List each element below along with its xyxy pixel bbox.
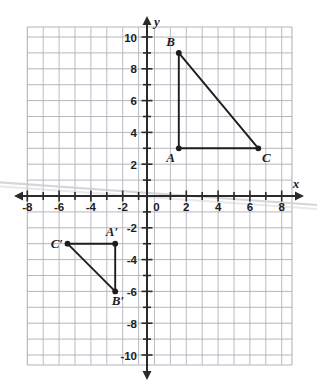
point-a — [176, 145, 182, 151]
point-c-label: C — [262, 150, 271, 165]
y-tick-pos6: 6 — [131, 95, 137, 107]
point-c-prime — [65, 241, 71, 247]
y-tick-neg6: -6 — [127, 286, 137, 298]
y-tick-neg4: -4 — [127, 254, 138, 266]
x-tick-neg2: -2 — [118, 201, 128, 213]
point-a-label: A — [165, 150, 175, 165]
origin-label: 0 — [153, 201, 159, 213]
y-tick-neg10: -10 — [120, 350, 137, 362]
x-axis-tick-labels: -8 -6 -4 -2 0 2 4 6 8 — [22, 201, 285, 213]
point-b — [176, 50, 182, 56]
x-tick-pos8: 8 — [278, 201, 285, 213]
point-a-prime-label: A′ — [105, 224, 119, 239]
point-b-prime-label: B′ — [111, 293, 125, 308]
y-axis-label: y — [152, 14, 160, 29]
point-b-label: B — [165, 34, 175, 49]
x-tick-neg6: -6 — [54, 201, 64, 213]
x-tick-pos4: 4 — [215, 201, 222, 213]
y-tick-pos4: 4 — [131, 127, 138, 139]
point-a-prime — [112, 241, 118, 247]
x-tick-pos2: 2 — [183, 201, 189, 213]
x-axis-label: x — [292, 176, 300, 191]
point-c — [255, 145, 261, 151]
point-c-prime-label: C′ — [51, 236, 64, 251]
coordinate-plane-svg: x y -8 -6 -4 -2 0 2 4 6 8 10 8 6 4 2 -2 … — [0, 0, 317, 390]
x-tick-neg8: -8 — [22, 201, 33, 213]
y-tick-pos10: 10 — [124, 32, 137, 44]
y-tick-pos8: 8 — [131, 63, 138, 75]
y-tick-neg8: -8 — [127, 318, 138, 330]
x-tick-neg4: -4 — [86, 201, 97, 213]
x-tick-pos6: 6 — [247, 201, 253, 213]
coordinate-plane-figure: x y -8 -6 -4 -2 0 2 4 6 8 10 8 6 4 2 -2 … — [0, 0, 317, 390]
y-tick-neg2: -2 — [127, 222, 137, 234]
y-tick-pos2: 2 — [131, 159, 137, 171]
